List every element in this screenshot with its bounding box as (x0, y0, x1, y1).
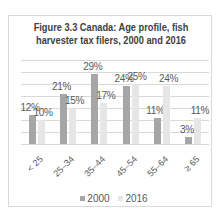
chart-title-line-2: harvester tax filers, 2000 and 2016 (21, 34, 201, 47)
chart-title: Figure 3.3 Canada: Age profile, fish har… (21, 21, 201, 47)
data-label: 10% (34, 107, 53, 118)
data-label: 15% (65, 95, 84, 106)
x-tick-label: 35–44 (83, 154, 108, 179)
data-label: 29% (83, 61, 102, 72)
data-label: 25% (128, 71, 147, 82)
x-tick-label: 25–34 (51, 154, 76, 179)
x-tick-label: 45–54 (114, 154, 139, 179)
legend-label-2016: 2016 (125, 193, 147, 204)
bar-2000 (154, 118, 161, 144)
data-label: 11% (146, 105, 164, 116)
x-tick-label: < 25 (25, 154, 45, 174)
bar-2016 (69, 108, 76, 144)
chart-frame: Figure 3.3 Canada: Age profile, fish har… (8, 15, 212, 207)
bar-2000 (29, 115, 36, 144)
legend: 2000 2016 (9, 192, 213, 204)
data-label: 11% (191, 105, 209, 116)
legend-label-2000: 2000 (87, 193, 109, 204)
gridline (21, 144, 209, 145)
chart-title-line-1: Figure 3.3 Canada: Age profile, fish (21, 21, 201, 34)
gridline (21, 120, 209, 121)
bar-2016 (100, 103, 107, 144)
bar-2016 (163, 86, 170, 144)
data-label: 3% (180, 124, 194, 135)
x-tick-label: ≥ 65 (182, 154, 201, 173)
data-label: 24% (159, 73, 178, 84)
data-label: 17% (96, 90, 115, 101)
bar-2000 (123, 86, 130, 144)
legend-swatch-2000 (80, 196, 85, 201)
bar-2000 (91, 74, 98, 144)
plot-area: 12%10%21%15%29%17%24%25%11%24%3%11% (21, 60, 209, 144)
bar-2016 (132, 84, 139, 144)
x-tick-label: 55–64 (145, 154, 170, 179)
bar-2016 (38, 120, 45, 144)
bar-2016 (194, 118, 201, 144)
data-label: 21% (52, 81, 71, 92)
bar-2000 (185, 137, 192, 144)
gridline (21, 60, 209, 61)
legend-swatch-2016 (118, 196, 123, 201)
